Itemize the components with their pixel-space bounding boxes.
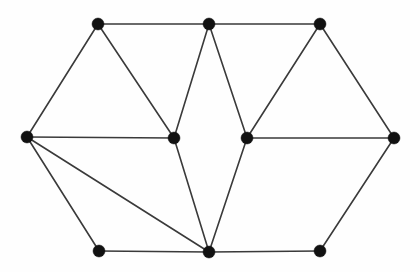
graph-edge: [98, 24, 174, 138]
graph-edge: [99, 251, 209, 252]
graph-vertex-center-right: [241, 132, 253, 144]
graph-vertex-left: [21, 131, 33, 143]
graph-vertex-bottom-middle: [203, 246, 215, 258]
graph-edge: [247, 24, 320, 138]
graph-vertex-top-right: [314, 18, 326, 30]
graph-edge: [209, 138, 247, 252]
graph-vertex-bottom-left: [93, 245, 105, 257]
graph-edge: [27, 137, 209, 252]
graph-edge: [174, 24, 209, 138]
graph-edge: [320, 138, 394, 251]
graph-edge: [174, 138, 209, 252]
graph-vertex-right: [388, 132, 400, 144]
graph-edge: [27, 24, 98, 137]
graph-vertex-top-left: [92, 18, 104, 30]
graph-edge: [27, 137, 174, 138]
graph-edge: [27, 137, 99, 251]
edge-layer: [27, 24, 394, 252]
graph-vertex-center-left: [168, 132, 180, 144]
graph-edge: [209, 24, 247, 138]
graph-figure: [0, 0, 420, 272]
graph-vertex-bottom-right: [314, 245, 326, 257]
graph-canvas: [0, 0, 420, 272]
graph-edge: [320, 24, 394, 138]
graph-vertex-top-middle: [203, 18, 215, 30]
graph-edge: [209, 251, 320, 252]
